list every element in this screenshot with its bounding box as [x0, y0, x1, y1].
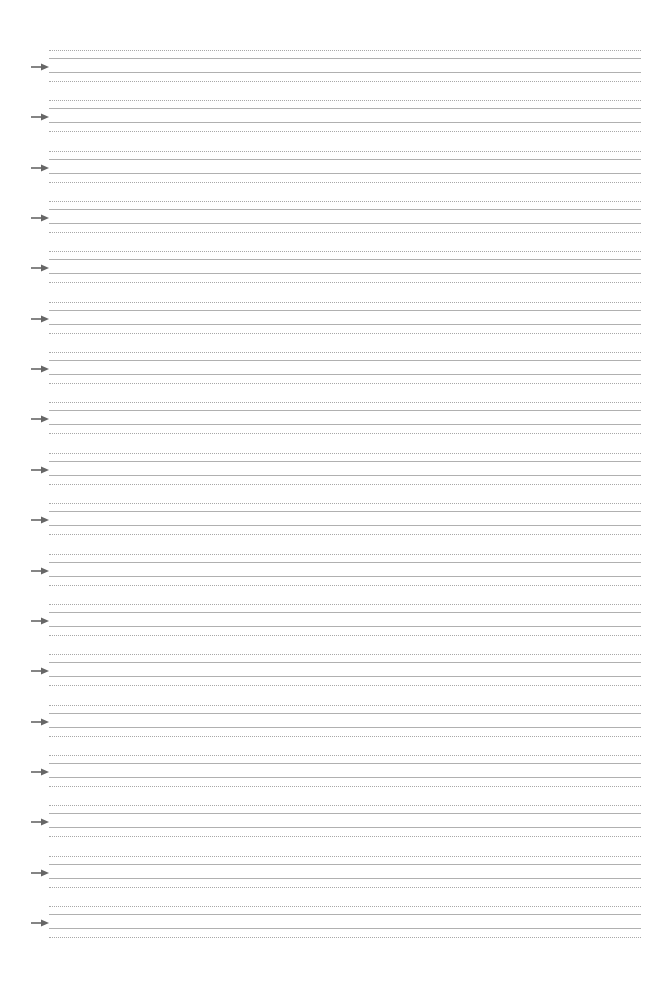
solid-upper-line [49, 713, 641, 714]
writing-line-group [0, 100, 664, 134]
dotted-bottom-line [49, 182, 641, 183]
arrow-right-icon [31, 768, 49, 776]
writing-line-group [0, 151, 664, 185]
arrow-right-icon [31, 869, 49, 877]
writing-line-group [0, 805, 664, 839]
dotted-top-line [49, 755, 641, 756]
dotted-top-line [49, 302, 641, 303]
solid-baseline [49, 626, 641, 627]
arrow-right-icon [31, 415, 49, 423]
dotted-bottom-line [49, 585, 641, 586]
solid-baseline [49, 72, 641, 73]
writing-line-group [0, 453, 664, 487]
solid-upper-line [49, 108, 641, 109]
solid-baseline [49, 374, 641, 375]
dotted-bottom-line [49, 81, 641, 82]
dotted-top-line [49, 705, 641, 706]
dotted-top-line [49, 856, 641, 857]
solid-baseline [49, 576, 641, 577]
dotted-bottom-line [49, 736, 641, 737]
arrow-right-icon [31, 365, 49, 373]
dotted-top-line [49, 554, 641, 555]
solid-upper-line [49, 562, 641, 563]
solid-baseline [49, 777, 641, 778]
arrow-right-icon [31, 264, 49, 272]
dotted-bottom-line [49, 383, 641, 384]
dotted-bottom-line [49, 282, 641, 283]
dotted-top-line [49, 201, 641, 202]
solid-upper-line [49, 914, 641, 915]
writing-line-group [0, 755, 664, 789]
solid-upper-line [49, 410, 641, 411]
arrow-right-icon [31, 63, 49, 71]
dotted-top-line [49, 251, 641, 252]
solid-baseline [49, 727, 641, 728]
arrow-right-icon [31, 113, 49, 121]
solid-upper-line [49, 461, 641, 462]
dotted-top-line [49, 654, 641, 655]
dotted-bottom-line [49, 836, 641, 837]
writing-line-group [0, 554, 664, 588]
solid-baseline [49, 223, 641, 224]
arrow-right-icon [31, 718, 49, 726]
dotted-bottom-line [49, 433, 641, 434]
dotted-bottom-line [49, 786, 641, 787]
dotted-top-line [49, 453, 641, 454]
solid-upper-line [49, 662, 641, 663]
dotted-top-line [49, 100, 641, 101]
writing-line-group [0, 503, 664, 537]
arrow-right-icon [31, 214, 49, 222]
writing-line-group [0, 402, 664, 436]
dotted-top-line [49, 604, 641, 605]
writing-line-group [0, 302, 664, 336]
writing-line-group [0, 604, 664, 638]
solid-upper-line [49, 310, 641, 311]
writing-line-group [0, 906, 664, 940]
solid-upper-line [49, 259, 641, 260]
writing-line-group [0, 201, 664, 235]
solid-baseline [49, 324, 641, 325]
arrow-right-icon [31, 567, 49, 575]
arrow-right-icon [31, 818, 49, 826]
practice-sheet [0, 0, 664, 983]
dotted-top-line [49, 151, 641, 152]
dotted-bottom-line [49, 887, 641, 888]
solid-baseline [49, 676, 641, 677]
writing-line-group [0, 50, 664, 84]
dotted-top-line [49, 50, 641, 51]
writing-line-group [0, 856, 664, 890]
arrow-right-icon [31, 315, 49, 323]
writing-line-group [0, 352, 664, 386]
arrow-right-icon [31, 516, 49, 524]
solid-upper-line [49, 360, 641, 361]
dotted-top-line [49, 352, 641, 353]
dotted-top-line [49, 906, 641, 907]
dotted-top-line [49, 503, 641, 504]
dotted-bottom-line [49, 685, 641, 686]
solid-upper-line [49, 813, 641, 814]
solid-upper-line [49, 58, 641, 59]
solid-baseline [49, 475, 641, 476]
dotted-bottom-line [49, 484, 641, 485]
dotted-bottom-line [49, 937, 641, 938]
dotted-top-line [49, 402, 641, 403]
solid-baseline [49, 878, 641, 879]
arrow-right-icon [31, 667, 49, 675]
dotted-bottom-line [49, 232, 641, 233]
arrow-right-icon [31, 164, 49, 172]
solid-upper-line [49, 159, 641, 160]
solid-upper-line [49, 612, 641, 613]
dotted-top-line [49, 805, 641, 806]
solid-baseline [49, 525, 641, 526]
solid-upper-line [49, 864, 641, 865]
solid-baseline [49, 122, 641, 123]
writing-line-group [0, 251, 664, 285]
dotted-bottom-line [49, 635, 641, 636]
solid-baseline [49, 173, 641, 174]
dotted-bottom-line [49, 131, 641, 132]
dotted-bottom-line [49, 333, 641, 334]
solid-upper-line [49, 209, 641, 210]
solid-upper-line [49, 763, 641, 764]
arrow-right-icon [31, 617, 49, 625]
solid-baseline [49, 424, 641, 425]
